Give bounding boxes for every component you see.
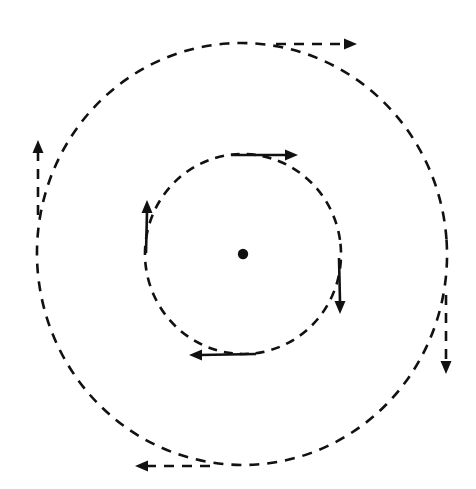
inner-bottom-arrow-head	[189, 350, 202, 361]
outer-top-arrow-head	[344, 39, 357, 50]
diagram-canvas	[0, 0, 476, 489]
inner-left-arrow-head	[142, 200, 153, 213]
outer-right-arrow	[441, 295, 452, 374]
inner-bottom-arrow	[189, 350, 256, 361]
inner-top-arrow-head	[285, 150, 298, 161]
outer-bottom-arrow-head	[135, 461, 148, 472]
outer-top-arrow	[276, 39, 357, 50]
outer-left-arrow-head	[33, 140, 44, 153]
outer-left-arrow	[33, 140, 44, 215]
inner-left-arrow-shaft	[146, 212, 147, 253]
outer-right-arrow-head	[441, 361, 452, 374]
inner-right-arrow-head	[335, 301, 346, 314]
center-point-dot	[238, 249, 248, 259]
inner-top-arrow	[231, 150, 298, 161]
inner-right-arrow-shaft	[339, 258, 340, 302]
inner-right-arrow	[335, 258, 346, 314]
circular-field-diagram	[0, 0, 476, 489]
inner-bottom-arrow-shaft	[200, 354, 256, 355]
outer-bottom-arrow	[135, 461, 210, 472]
inner-left-arrow	[142, 200, 153, 253]
